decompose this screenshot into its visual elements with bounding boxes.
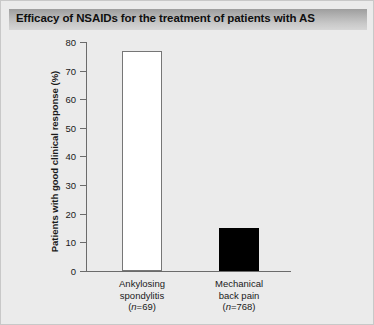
category-sample-size: (n=69) (87, 301, 197, 313)
y-tick-label-50: 50 (36, 124, 76, 133)
plot-area: Patients with good clinical response (%)… (1, 1, 374, 325)
category-line-2: back pain (184, 290, 294, 302)
y-tick-mark-30 (80, 185, 86, 186)
y-tick-mark-60 (80, 99, 86, 100)
bar-ankylosing-spondylitis (122, 51, 162, 271)
y-tick-label-60: 60 (36, 95, 76, 104)
y-axis-line (86, 42, 87, 272)
figure-panel: Efficacy of NSAIDs for the treatment of … (0, 0, 374, 325)
category-line-1: Ankylosing (87, 278, 197, 290)
x-category-label-ankylosing-spondylitis: Ankylosing spondylitis (n=69) (87, 278, 197, 313)
y-tick-label-0: 0 (36, 267, 76, 276)
y-tick-label-10: 10 (36, 238, 76, 247)
category-line-1: Mechanical (184, 278, 294, 290)
category-sample-size: (n=768) (184, 301, 294, 313)
x-axis-line (86, 271, 291, 272)
y-tick-mark-50 (80, 128, 86, 129)
y-tick-mark-0 (80, 271, 86, 272)
y-tick-label-80: 80 (36, 38, 76, 47)
y-tick-mark-80 (80, 42, 86, 43)
y-tick-label-30: 30 (36, 181, 76, 190)
y-tick-mark-20 (80, 214, 86, 215)
y-tick-label-40: 40 (36, 152, 76, 161)
y-tick-mark-10 (80, 242, 86, 243)
y-tick-label-70: 70 (36, 67, 76, 76)
x-category-label-mechanical-back-pain: Mechanical back pain (n=768) (184, 278, 294, 313)
y-tick-label-20: 20 (36, 210, 76, 219)
y-tick-mark-40 (80, 156, 86, 157)
y-tick-mark-70 (80, 71, 86, 72)
bar-mechanical-back-pain (219, 228, 259, 271)
category-line-2: spondylitis (87, 290, 197, 302)
